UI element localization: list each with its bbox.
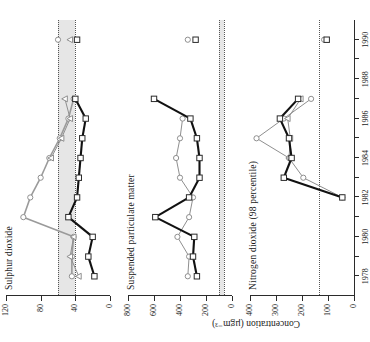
y-axis-tick-label: 120 [1, 304, 10, 342]
series-line [49, 138, 59, 158]
y-axis-tick [75, 296, 76, 301]
series-layer [250, 20, 354, 296]
data-point-marker-circle [38, 175, 43, 180]
x-axis-tick [354, 216, 359, 217]
x-axis-tick [354, 256, 359, 257]
series-line [154, 99, 190, 119]
series-line [68, 217, 92, 237]
x-axis-tick-label: 1984 [361, 141, 370, 175]
data-point-marker-square [286, 136, 291, 141]
y-axis-tick [6, 296, 7, 301]
data-point-marker-square [289, 155, 294, 160]
data-point-marker-circle [254, 136, 259, 141]
y-axis-tick [110, 296, 111, 301]
data-point-marker-circle [55, 37, 60, 42]
x-axis-tick [354, 196, 359, 197]
y-axis-tick-label: 100 [323, 304, 332, 342]
data-point-marker-square [66, 214, 71, 219]
x-axis-tick-label: 1988 [361, 62, 370, 96]
data-point-marker-square [83, 116, 88, 121]
panel-suspended-particulate-matter: Suspended particulate matter 02004006008… [128, 0, 232, 342]
series-line [155, 197, 189, 217]
data-point-marker-circle [177, 175, 182, 180]
series-layer [128, 20, 232, 296]
data-point-marker-circle [28, 195, 33, 200]
y-axis-tick-label: 800 [123, 304, 132, 342]
y-axis-tick [128, 296, 129, 301]
data-point-marker-circle [180, 116, 185, 121]
x-axis-tick-label: 1990 [361, 23, 370, 57]
plot-area-sulphur-dioxide [6, 20, 110, 296]
data-point-marker-square [197, 175, 202, 180]
data-point-marker-square [86, 254, 91, 259]
data-point-marker-square [74, 37, 79, 42]
y-axis-tick [232, 296, 233, 301]
x-axis-tick [354, 39, 359, 40]
data-point-marker-square [74, 195, 79, 200]
y-axis-line-sulphur-dioxide [6, 295, 110, 296]
data-point-marker-triangle [62, 96, 68, 102]
data-point-marker-square [76, 175, 81, 180]
panel-nitrogen-dioxide: Nitrogen dioxide (98 percentile) 0100200… [250, 0, 354, 342]
data-point-marker-square [90, 234, 95, 239]
series-line [257, 138, 290, 158]
x-axis-tick [354, 177, 359, 178]
data-point-marker-square [78, 155, 83, 160]
x-axis-tick-label: 1980 [361, 220, 370, 254]
y-axis-tick-label: 400 [175, 304, 184, 342]
y-axis-tick-label: 600 [149, 304, 158, 342]
x-axis-tick [354, 58, 359, 59]
x-axis-tick [354, 236, 359, 237]
y-axis-tick [154, 296, 155, 301]
y-axis-tick-label: 0 [349, 304, 358, 342]
y-axis-tick [180, 296, 181, 301]
x-axis-tick-label: 1982 [361, 180, 370, 214]
y-axis-tick [302, 296, 303, 301]
data-point-marker-circle [185, 37, 190, 42]
y-axis-tick [328, 296, 329, 301]
series-line [23, 197, 30, 217]
data-point-marker-square [281, 175, 286, 180]
y-axis-tick [206, 296, 207, 301]
data-point-marker-square [92, 274, 97, 279]
data-point-marker-square [324, 37, 329, 42]
plot-area-nitrogen-dioxide [250, 20, 354, 296]
y-axis-tick [41, 296, 42, 301]
data-point-marker-square [193, 37, 198, 42]
series-line [30, 178, 40, 198]
data-point-marker-square [80, 136, 85, 141]
data-point-marker-square [190, 254, 195, 259]
x-axis-tick-label: 1978 [361, 259, 370, 293]
data-point-marker-circle [175, 234, 180, 239]
series-line [177, 237, 189, 257]
data-point-marker-square [186, 195, 191, 200]
y-axis-caption: Concentration (µgm⁻³) [212, 319, 300, 330]
data-point-marker-triangle [67, 37, 73, 43]
y-axis-tick-label: 80 [36, 304, 45, 342]
plot-area-suspended-particulate-matter [128, 20, 232, 296]
data-point-marker-circle [185, 274, 190, 279]
x-axis-tick [354, 137, 359, 138]
x-axis-tick [354, 78, 359, 79]
data-point-marker-circle [309, 96, 314, 101]
data-point-marker-circle [301, 175, 306, 180]
data-point-marker-square [192, 234, 197, 239]
data-point-marker-square [340, 195, 345, 200]
series-layer [6, 20, 110, 296]
y-axis-tick-label: 200 [201, 304, 210, 342]
data-point-marker-square [194, 136, 199, 141]
data-point-marker-square [73, 96, 78, 101]
data-point-marker-square [153, 214, 158, 219]
data-point-marker-circle [177, 136, 182, 141]
data-point-marker-square [197, 155, 202, 160]
y-axis-tick [250, 296, 251, 301]
x-axis-tick-label: 1986 [361, 102, 370, 136]
series-line [41, 158, 50, 178]
x-axis-tick [354, 98, 359, 99]
data-point-marker-circle [21, 215, 26, 220]
y-axis-tick [276, 296, 277, 301]
y-axis-tick-label: 0 [105, 304, 114, 342]
panel-sulphur-dioxide: Sulphur dioxide 04080120 [6, 0, 110, 342]
